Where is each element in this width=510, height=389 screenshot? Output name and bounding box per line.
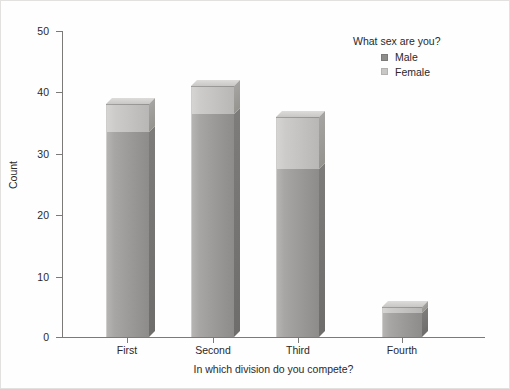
bar-segment-male-fourth: [382, 313, 422, 337]
bar-segment-female-fourth: [382, 307, 422, 313]
bar-segment-female-first: [106, 104, 149, 132]
y-tick-label-50: 50: [19, 26, 49, 37]
y-tick-30: [56, 154, 62, 155]
legend-item-male: Male: [381, 52, 503, 63]
legend-label-male: Male: [395, 52, 418, 63]
legend-swatch-icon-female: [381, 68, 388, 75]
bar-group-second: [191, 86, 234, 337]
y-tick-20: [56, 215, 62, 216]
y-axis-title: Count: [7, 145, 19, 205]
y-tick-label-30: 30: [19, 149, 49, 160]
x-tick-label-first: First: [87, 345, 167, 356]
bar-segment-male-third: [276, 169, 319, 337]
chart-canvas: 50 40 30 20 10 0 Count First Second Thir…: [0, 0, 510, 389]
x-tick-second: [213, 338, 214, 343]
bar-group-fourth: [382, 307, 422, 337]
x-tick-first: [127, 338, 128, 343]
x-axis-title: In which division do you compete?: [62, 363, 485, 375]
x-tick-fourth: [402, 338, 403, 343]
x-tick-label-second: Second: [173, 345, 253, 356]
y-tick-40: [56, 92, 62, 93]
bar-segment-male-first: [106, 132, 149, 337]
bar-group-first: [106, 104, 149, 337]
legend-title: What sex are you?: [353, 35, 503, 47]
x-tick-third: [298, 338, 299, 343]
x-tick-label-fourth: Fourth: [362, 345, 442, 356]
legend-label-female: Female: [395, 67, 430, 78]
x-tick-label-third: Third: [258, 345, 338, 356]
bar-group-third: [276, 117, 319, 337]
y-axis-line: [62, 31, 63, 338]
y-tick-50: [56, 31, 62, 32]
legend: What sex are you? Male Female: [353, 35, 503, 81]
y-tick-label-10: 10: [19, 272, 49, 283]
legend-item-female: Female: [381, 67, 503, 78]
y-tick-label-20: 20: [19, 210, 49, 221]
y-tick-label-0: 0: [19, 332, 49, 343]
y-tick-10: [56, 277, 62, 278]
y-tick-label-40: 40: [19, 87, 49, 98]
legend-swatch-icon-male: [381, 54, 388, 61]
bar-segment-female-third: [276, 117, 319, 169]
plot-area: 50 40 30 20 10 0 Count First Second Thir…: [1, 1, 510, 389]
bar-segment-female-second: [191, 86, 234, 114]
bar-segment-male-second: [191, 114, 234, 337]
